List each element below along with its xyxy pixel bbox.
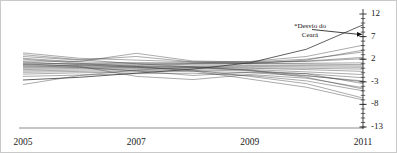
y-axis-tick-label: 7 <box>371 32 376 41</box>
line-chart-plot <box>1 1 397 153</box>
y-axis-tick-label: 2 <box>371 54 376 63</box>
x-axis-tick-label: 2005 <box>9 137 37 147</box>
x-axis-tick-label: 2007 <box>122 137 150 147</box>
x-axis-tick-label: 2009 <box>236 137 264 147</box>
annotation-arrow-head <box>357 32 363 37</box>
y-axis-tick-label: -13 <box>371 122 383 131</box>
y-axis-tick-label: -3 <box>371 77 379 86</box>
annotation-label-desvio-do-ceara: *Desvio do Ceará <box>287 22 333 39</box>
y-axis-tick-label: -8 <box>371 99 379 108</box>
chart-figure: 1272-3-8-13 2005200720092011 *Desvio do … <box>0 0 397 153</box>
x-axis-tick-label: 2011 <box>349 137 377 147</box>
series-line <box>23 67 363 89</box>
y-axis-tick-label: 12 <box>371 9 380 18</box>
